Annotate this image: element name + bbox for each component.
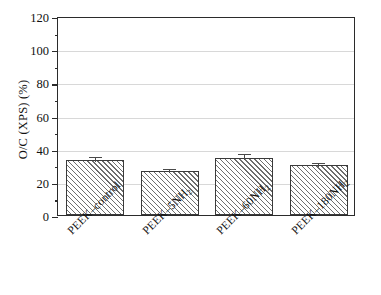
y-tick-major <box>52 51 58 52</box>
y-tick-minor <box>55 200 59 201</box>
y-tick-major <box>52 184 58 185</box>
y-tick-label: 80 <box>37 77 50 92</box>
y-tick-major <box>52 217 58 218</box>
y-tick-minor <box>55 167 59 168</box>
y-tick-major <box>52 18 58 19</box>
gridline <box>58 118 354 119</box>
y-tick-major <box>52 151 58 152</box>
y-axis-title: O/C (XPS) (%) <box>16 50 31 190</box>
y-tick-minor <box>55 134 59 135</box>
gridline <box>58 51 354 52</box>
plot-area: 020406080100120 <box>57 17 355 216</box>
y-tick-label: 20 <box>37 176 50 191</box>
y-tick-major <box>52 118 58 119</box>
error-bar-cap <box>312 163 325 164</box>
gridline <box>58 84 354 85</box>
error-bar-cap <box>238 154 251 155</box>
y-tick-label: 120 <box>30 11 49 26</box>
gridline <box>58 151 354 152</box>
y-tick-label: 0 <box>43 210 49 225</box>
y-tick-label: 100 <box>30 44 49 59</box>
y-tick-minor <box>55 101 59 102</box>
error-bar-cap <box>89 157 102 158</box>
y-tick-minor <box>55 68 59 69</box>
figure-bar-chart-oc-xps: O/C (XPS) (%) 020406080100120 PEEK–contr… <box>0 0 381 295</box>
y-tick-major <box>52 84 58 85</box>
y-tick-minor <box>55 35 59 36</box>
y-tick-label: 40 <box>37 143 50 158</box>
error-bar-cap <box>163 169 176 170</box>
y-tick-label: 60 <box>37 110 50 125</box>
